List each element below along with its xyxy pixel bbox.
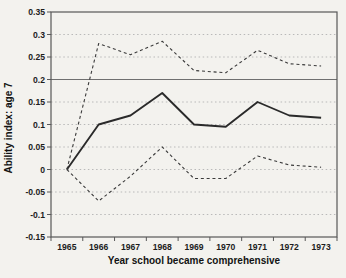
y-tick-label: 0: [40, 165, 45, 175]
x-tick-label: 1969: [184, 242, 203, 252]
chart-plot-area: 0.350.30.250.20.150.10.050-0.05-0.1-0.15…: [25, 7, 337, 252]
x-tick-label: 1965: [57, 242, 76, 252]
x-axis-title: Year school became comprehensive: [108, 255, 281, 266]
y-tick-label: 0.15: [28, 97, 45, 107]
x-tick-label: 1971: [248, 242, 267, 252]
y-tick-label: 0.3: [33, 30, 45, 40]
series-lower-confidence-band: [67, 147, 321, 201]
y-tick-label: 0.2: [33, 75, 45, 85]
line-chart: 0.350.30.250.20.150.10.050-0.05-0.1-0.15…: [0, 0, 346, 278]
x-tick-label: 1968: [153, 242, 172, 252]
y-axis-title: Ability index: age 7: [3, 82, 14, 174]
y-tick-label: -0.05: [25, 187, 45, 197]
series-ability-index-estimate: [67, 93, 321, 170]
y-tick-label: -0.1: [30, 210, 45, 220]
y-tick-label: 0.35: [28, 7, 45, 17]
y-tick-label: 0.25: [28, 52, 45, 62]
y-tick-label: 0.05: [28, 142, 45, 152]
series-upper-confidence-band: [67, 41, 321, 169]
x-tick-label: 1967: [121, 242, 140, 252]
x-tick-label: 1973: [312, 242, 331, 252]
y-tick-label: -0.15: [25, 232, 45, 242]
y-tick-label: 0.1: [33, 120, 45, 130]
figure: 0.350.30.250.20.150.10.050-0.05-0.1-0.15…: [0, 0, 346, 278]
x-tick-label: 1970: [216, 242, 235, 252]
x-tick-label: 1966: [89, 242, 108, 252]
x-tick-label: 1972: [280, 242, 299, 252]
